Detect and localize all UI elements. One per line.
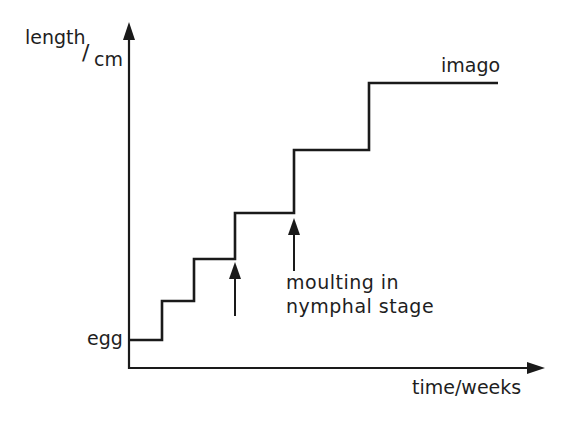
arrow-up-icon bbox=[229, 262, 241, 279]
egg-label: egg bbox=[87, 329, 123, 348]
y-axis-arrow-icon bbox=[123, 22, 135, 40]
moult-arrow-1 bbox=[229, 262, 241, 316]
x-axis-arrow-icon bbox=[527, 362, 545, 374]
y-axis-label-slash: / bbox=[82, 42, 89, 64]
x-axis-unit: weeks bbox=[461, 376, 521, 398]
moulting-annotation-line-1: moulting in bbox=[286, 273, 399, 292]
x-axis-label: time/weeks bbox=[412, 378, 521, 397]
y-axis-unit: cm bbox=[94, 50, 123, 69]
x-axis-label-text: time bbox=[412, 376, 455, 398]
x-axis bbox=[128, 362, 545, 374]
imago-label: imago bbox=[441, 56, 500, 75]
moult-arrow-2 bbox=[288, 218, 300, 271]
moulting-annotation-line-2: nymphal stage bbox=[286, 297, 434, 316]
y-axis-label: length bbox=[25, 28, 86, 47]
arrow-up-icon bbox=[288, 218, 300, 235]
y-axis bbox=[123, 22, 135, 369]
